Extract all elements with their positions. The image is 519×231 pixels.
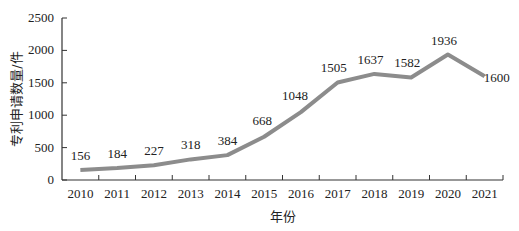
x-tick-label: 2020 bbox=[435, 186, 461, 201]
y-axis: 05001000150020002500 bbox=[28, 10, 67, 187]
x-tick-label: 2012 bbox=[141, 186, 167, 201]
data-label: 227 bbox=[144, 143, 164, 158]
x-tick-label: 2015 bbox=[251, 186, 277, 201]
x-tick-label: 2021 bbox=[472, 186, 498, 201]
y-tick-label: 2000 bbox=[28, 42, 54, 57]
y-axis-title: 专利申请数量/件 bbox=[9, 51, 24, 146]
data-label: 1600 bbox=[484, 70, 510, 85]
data-series bbox=[80, 55, 484, 170]
y-tick-label: 0 bbox=[48, 172, 55, 187]
x-axis-title: 年份 bbox=[270, 209, 296, 224]
data-label: 1048 bbox=[282, 88, 308, 103]
x-tick-label: 2017 bbox=[325, 186, 352, 201]
data-label: 1637 bbox=[357, 52, 384, 67]
x-tick-label: 2016 bbox=[288, 186, 315, 201]
data-label: 184 bbox=[107, 146, 127, 161]
data-label: 318 bbox=[181, 137, 201, 152]
x-tick-label: 2010 bbox=[67, 186, 93, 201]
y-tick-label: 1500 bbox=[28, 75, 54, 90]
y-tick-label: 2500 bbox=[28, 10, 54, 25]
x-tick-label: 2018 bbox=[361, 186, 387, 201]
line-chart: 05001000150020002500 2010201120122013201… bbox=[0, 0, 519, 231]
data-label: 1505 bbox=[321, 60, 347, 75]
series-line bbox=[80, 55, 484, 170]
x-tick-label: 2019 bbox=[398, 186, 424, 201]
x-tick-label: 2014 bbox=[214, 186, 241, 201]
y-tick-label: 500 bbox=[35, 140, 55, 155]
data-label: 1582 bbox=[394, 55, 420, 70]
data-label: 384 bbox=[218, 133, 238, 148]
data-labels: 1561842273183846681048150516371582193616… bbox=[71, 33, 510, 163]
data-label: 668 bbox=[252, 113, 272, 128]
x-axis: 2010201120122013201420152016201720182019… bbox=[62, 175, 503, 201]
x-tick-label: 2011 bbox=[104, 186, 130, 201]
data-label: 156 bbox=[71, 148, 91, 163]
y-tick-label: 1000 bbox=[28, 107, 54, 122]
data-label: 1936 bbox=[431, 33, 458, 48]
x-tick-label: 2013 bbox=[178, 186, 204, 201]
